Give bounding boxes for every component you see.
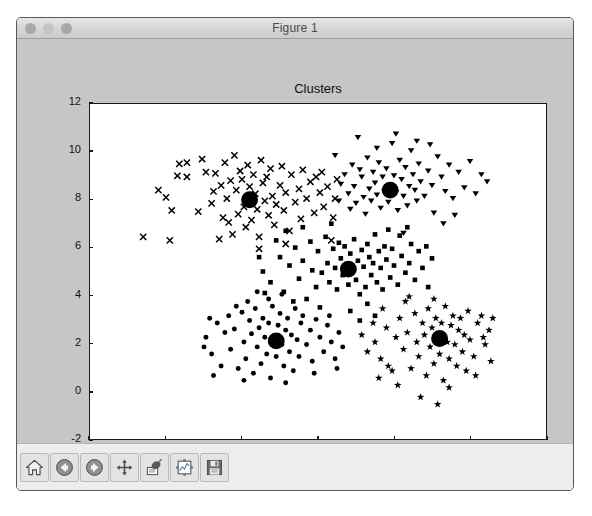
data-point — [271, 222, 277, 228]
y-tick-label: 10 — [49, 143, 81, 155]
data-point — [423, 372, 431, 379]
data-point — [338, 256, 343, 261]
data-point — [365, 242, 370, 247]
data-point — [430, 295, 438, 302]
data-point — [398, 177, 405, 182]
data-point — [335, 366, 340, 371]
x-tick-mark — [394, 436, 395, 440]
data-point — [457, 314, 465, 321]
data-point — [405, 293, 413, 300]
y-tick-mark — [89, 295, 93, 296]
data-point — [338, 182, 345, 187]
data-point — [262, 335, 267, 340]
data-point — [434, 400, 442, 407]
forward-button[interactable] — [80, 453, 109, 482]
zoom-button[interactable] — [140, 453, 169, 482]
window-titlebar: Figure 1 — [17, 18, 573, 39]
data-point — [317, 335, 322, 340]
data-point — [245, 162, 251, 168]
data-point — [297, 276, 302, 281]
data-point — [319, 270, 324, 275]
data-point — [331, 246, 336, 251]
data-point — [400, 194, 407, 199]
data-point — [256, 246, 262, 252]
data-point — [283, 189, 289, 195]
data-point — [369, 319, 377, 326]
data-point — [426, 285, 431, 290]
data-point — [262, 198, 268, 204]
data-point — [409, 242, 414, 247]
data-point — [184, 160, 190, 166]
data-point — [382, 244, 387, 249]
data-point — [308, 239, 313, 244]
back-button[interactable] — [50, 453, 79, 482]
data-point — [412, 188, 419, 193]
data-point — [285, 316, 290, 321]
data-point — [440, 221, 447, 226]
data-point — [450, 196, 457, 201]
data-point — [396, 158, 403, 163]
data-point — [426, 343, 434, 350]
data-point — [470, 352, 478, 359]
move-cross-icon — [115, 458, 134, 477]
plot-axes[interactable] — [89, 103, 547, 440]
data-point — [429, 183, 436, 188]
data-point — [259, 361, 264, 366]
data-point — [375, 374, 383, 381]
data-point — [341, 172, 348, 177]
data-point — [354, 278, 359, 283]
data-point — [366, 187, 373, 192]
data-point — [319, 169, 325, 175]
data-point — [270, 304, 275, 309]
data-point — [176, 161, 182, 167]
data-point — [321, 204, 327, 210]
data-point — [373, 313, 378, 318]
data-point — [392, 263, 397, 268]
data-point — [383, 166, 390, 171]
data-point — [247, 318, 252, 323]
data-point — [424, 305, 432, 312]
data-point — [351, 184, 358, 189]
cluster-centroid — [241, 191, 258, 208]
data-point — [357, 167, 364, 172]
data-point — [228, 347, 233, 352]
data-point — [396, 314, 404, 321]
data-point — [308, 328, 313, 333]
window-title: Figure 1 — [17, 21, 573, 35]
y-tick-label: 6 — [49, 239, 81, 251]
data-point — [253, 306, 258, 311]
data-point — [438, 175, 445, 180]
data-point — [455, 326, 463, 333]
data-point — [283, 229, 288, 234]
data-point — [447, 321, 455, 328]
y-tick-mark — [89, 199, 93, 200]
data-point — [291, 368, 296, 373]
data-point — [203, 335, 208, 340]
data-point — [434, 154, 441, 159]
data-point — [403, 270, 408, 275]
data-point — [203, 169, 209, 175]
data-point — [345, 191, 352, 196]
save-button[interactable] — [200, 453, 229, 482]
data-point — [265, 212, 271, 218]
data-point — [375, 280, 380, 285]
data-point — [231, 152, 237, 158]
data-point — [310, 268, 315, 273]
data-point — [241, 378, 246, 383]
data-point — [300, 258, 305, 263]
data-point — [232, 326, 237, 331]
data-point — [256, 234, 262, 240]
data-point — [467, 159, 474, 164]
data-point — [357, 318, 362, 323]
data-point — [395, 208, 402, 213]
data-point — [455, 170, 462, 175]
data-point — [392, 333, 400, 340]
pan-button[interactable] — [110, 453, 139, 482]
data-point — [376, 249, 381, 254]
configure-subplots-button[interactable] — [170, 453, 199, 482]
data-point — [397, 233, 402, 238]
home-button[interactable] — [20, 453, 49, 482]
data-point — [417, 393, 425, 400]
data-point — [260, 316, 265, 321]
data-point — [262, 291, 267, 296]
